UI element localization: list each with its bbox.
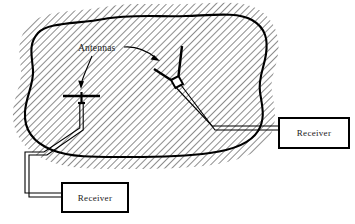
diagram-canvas: Receiver Receiver Antennas bbox=[0, 0, 355, 224]
receiver-bottom-label: Receiver bbox=[78, 193, 112, 203]
antennas-label: Antennas bbox=[78, 43, 116, 53]
receiver-right[interactable]: Receiver bbox=[279, 118, 349, 148]
antenna-enclosure-diagram: Receiver Receiver Antennas bbox=[0, 0, 355, 224]
enclosure-outline bbox=[25, 15, 267, 157]
receiver-bottom[interactable]: Receiver bbox=[62, 183, 128, 212]
receiver-right-label: Receiver bbox=[297, 128, 331, 138]
